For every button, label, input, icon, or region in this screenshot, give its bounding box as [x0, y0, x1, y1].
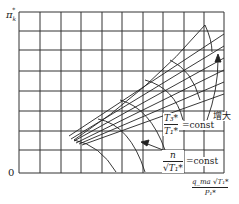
speed-fraction: n √T₁* [162, 150, 184, 173]
speed-const: =const [186, 157, 218, 166]
temperature-ratio-numerator: T₃* [164, 113, 178, 123]
pointer-arrow [141, 140, 163, 150]
speed-denominator: √T₁* [163, 163, 183, 173]
x-axis-numerator: q_ma √T₁* [192, 178, 228, 186]
y-axis-subscript: k [13, 15, 17, 22]
origin-label: 0 [8, 168, 14, 178]
speed-numerator: n [170, 150, 176, 160]
temperature-ratio-const: =const [182, 121, 214, 130]
fraction-bar [192, 187, 228, 188]
temperature-ratio-denominator: T₁* [164, 126, 178, 136]
x-axis-label: q_ma √T₁* P₁* [192, 178, 228, 197]
fraction-bar [164, 124, 178, 125]
fraction-bar [163, 161, 183, 162]
temperature-ratio-fraction: T₃* T₁* [163, 113, 179, 136]
grid [19, 12, 224, 173]
compressor-characteristic-chart [0, 0, 239, 204]
increase-annotation: 增大 [213, 112, 231, 121]
y-axis-superscript: * [12, 6, 15, 13]
x-axis-denominator: P₁* [205, 189, 216, 197]
y-axis-label: πk* [6, 9, 19, 22]
